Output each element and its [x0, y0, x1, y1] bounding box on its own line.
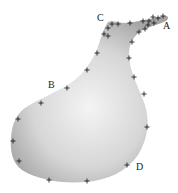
shape-diagram: A B C D: [0, 0, 178, 193]
label-b: B: [48, 79, 55, 90]
label-c: C: [97, 12, 104, 23]
label-a: A: [163, 20, 171, 31]
shape-outline: [11, 16, 168, 183]
landmark-cross-icon: [142, 92, 147, 97]
label-d: D: [136, 161, 143, 172]
